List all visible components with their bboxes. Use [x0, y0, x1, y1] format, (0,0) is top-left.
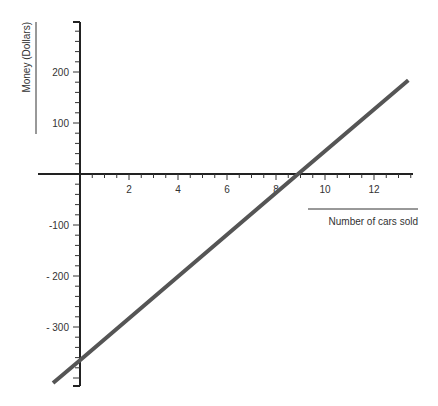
y-tick-label: 200: [52, 67, 69, 78]
x-tick-label: 2: [126, 184, 132, 195]
y-tick-label: 100: [52, 118, 69, 129]
y-tick-label: - 200: [46, 271, 69, 282]
x-tick-label: 12: [368, 184, 380, 195]
y-tick-label: -100: [49, 220, 69, 231]
x-tick-label: 10: [319, 184, 331, 195]
axes: [38, 22, 413, 386]
money-line: [53, 80, 408, 383]
data-series: [53, 80, 408, 383]
x-axis-label: Number of cars sold: [329, 216, 418, 227]
y-axis-label: Money (Dollars): [21, 22, 32, 93]
x-tick-label: 4: [175, 184, 181, 195]
y-tick-label: - 300: [46, 322, 69, 333]
tick-marks: [73, 31, 411, 378]
x-tick-label: 6: [224, 184, 230, 195]
tick-labels: 24681012200100-100- 200- 300: [46, 67, 380, 333]
line-chart: 24681012200100-100- 200- 300 Number of c…: [0, 0, 438, 406]
